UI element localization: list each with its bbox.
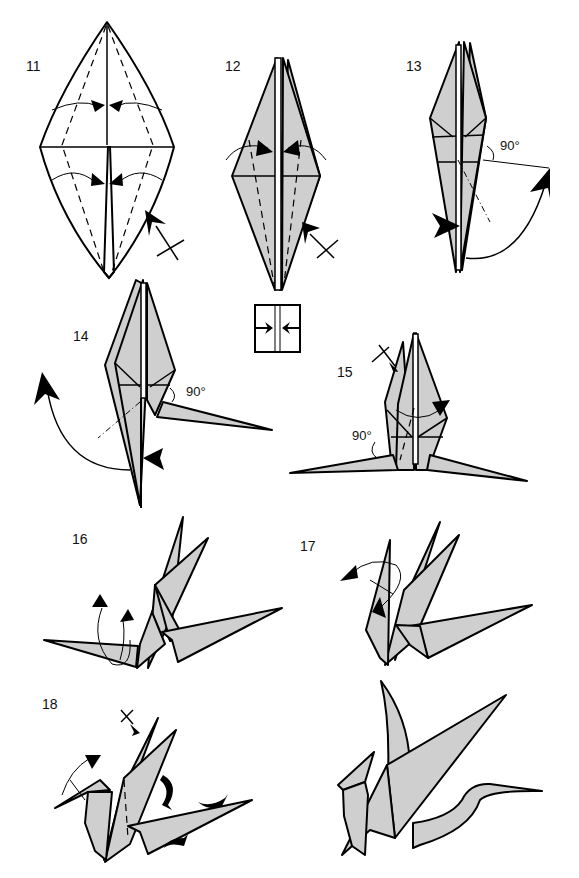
origami-diagram: [0, 0, 579, 878]
step-18-figure: [55, 710, 252, 862]
step-17-figure: [340, 522, 532, 665]
step-11-figure: [40, 22, 184, 278]
arrowhead-icon: [34, 372, 60, 405]
arrowhead-icon: [340, 565, 358, 581]
arrowhead-icon: [85, 755, 101, 769]
push-arrowhead-icon: [130, 724, 140, 736]
step-16-figure: [44, 517, 282, 668]
crimp-arrowhead-icon: [160, 775, 173, 810]
squash-symbol-icon: [255, 305, 300, 352]
step-13-figure: [430, 42, 550, 272]
finished-dragon-figure: [338, 681, 542, 855]
arrowhead-icon: [530, 168, 550, 198]
arrowhead-icon: [92, 594, 108, 607]
push-arrowhead-icon: [145, 210, 166, 236]
step-12-figure: [226, 58, 338, 290]
step-15-figure: [290, 333, 527, 481]
step-14-figure: [34, 280, 272, 508]
reverse-fold-arrowhead-icon: [143, 448, 164, 470]
arrowhead-icon: [120, 609, 134, 622]
